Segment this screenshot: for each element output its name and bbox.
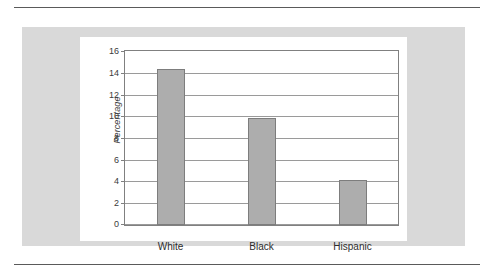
plot-area: 0 2 4 6 8 (124, 50, 399, 226)
bar-black[interactable] (248, 118, 276, 225)
x-tick-label-black: Black (216, 241, 307, 252)
bar-slot-hispanic (307, 51, 398, 225)
x-tick-label-hispanic: Hispanic (307, 241, 398, 252)
bar-hispanic[interactable] (339, 180, 367, 225)
y-tick-label-6: 6 (114, 155, 119, 165)
y-tick-label-10: 10 (109, 111, 119, 121)
y-tick-label-8: 8 (114, 133, 119, 143)
y-tick-label-12: 12 (109, 90, 119, 100)
bar-white[interactable] (157, 69, 185, 225)
y-tick-label-14: 14 (109, 68, 119, 78)
y-tick-label-0: 0 (114, 219, 119, 229)
top-divider (14, 7, 480, 8)
y-tick-label-16: 16 (109, 46, 119, 56)
page: Percentage 0 2 4 6 (0, 0, 494, 279)
bar-chart: Percentage 0 2 4 6 (80, 37, 407, 241)
bar-slot-black (216, 51, 307, 225)
figure-card: Percentage 0 2 4 6 (80, 37, 407, 241)
y-tick-label-4: 4 (114, 176, 119, 186)
bar-slot-white (125, 51, 216, 225)
bars-group (125, 51, 398, 225)
bottom-divider (14, 264, 480, 265)
x-tick-label-white: White (125, 241, 216, 252)
y-tick-label-2: 2 (114, 198, 119, 208)
